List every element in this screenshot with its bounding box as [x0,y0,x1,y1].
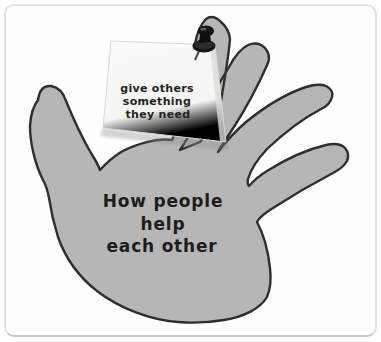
note-caption-line-2: something [123,95,191,108]
hand-artwork-canvas: How people help each other give others s… [0,0,381,342]
palm-caption-line-1: How people [103,191,223,211]
palm-caption-line-3: each other [107,236,218,256]
note-caption: give others something they need [120,82,194,121]
note-caption-line-1: give others [120,82,194,95]
push-pin-head [198,26,214,37]
note-caption-line-3: they need [126,108,191,121]
craft-photo: How people help each other give others s… [0,0,381,342]
push-pin-head-highlight [200,27,206,30]
palm-caption-line-2: help [141,214,186,234]
